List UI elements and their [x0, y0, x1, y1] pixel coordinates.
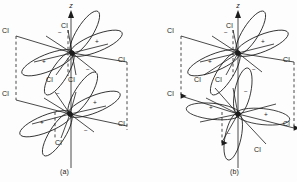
lobe-sign: −: [252, 66, 256, 73]
orbital-figure: + + − − + + − − + + − − + + − − z z Cl C…: [0, 0, 297, 182]
metal-center-a-lower: [67, 111, 72, 116]
z-axis-arrowhead-a: [68, 10, 74, 18]
bond-a-u-1: [16, 36, 72, 53]
lobe-sign: +: [209, 104, 213, 111]
bond-b-l-7: [200, 114, 238, 122]
lobe-sign: +: [95, 38, 99, 45]
lobe-sign: +: [40, 119, 44, 126]
lobe-sign: −: [56, 90, 60, 97]
orbital-diagram-svg: + + − − + + − − + + − − + + − − z z: [0, 0, 297, 182]
bond-b-u-7: [200, 53, 238, 62]
bond-b-u-6: [238, 44, 274, 53]
lobe-sign: −: [224, 29, 228, 36]
z-axis-label-a: z: [68, 2, 73, 9]
lobe-sign: +: [264, 111, 268, 118]
bond-a-l-5: [61, 114, 70, 138]
ligand-label-cl: Cl: [2, 90, 9, 97]
metal-center-a-upper: [69, 50, 74, 55]
ligand-label-cl: Cl: [283, 56, 290, 63]
lobe-sign: −: [84, 127, 88, 134]
ligand-label-cl: Cl: [68, 76, 75, 83]
ligand-label-cl: Cl: [118, 120, 125, 127]
ligand-label-cl: Cl: [194, 76, 201, 83]
z-axis-label-b: z: [235, 2, 240, 9]
ligand-label-cl: Cl: [283, 120, 290, 127]
ligand-label-cl: Cl: [118, 56, 125, 63]
bond-b-u-5: [226, 53, 238, 75]
lobe-sign: −: [86, 66, 90, 73]
ligand-label-cl: Cl: [167, 90, 174, 97]
ligand-label-cl: Cl: [2, 27, 9, 34]
ligand-label-cl: Cl: [61, 22, 68, 29]
metal-center-b-upper: [235, 50, 240, 55]
lobe-sign: −: [227, 130, 231, 137]
z-axis-arrowhead-b: [235, 10, 241, 18]
panel-caption-a: (a): [60, 168, 69, 175]
panel-a: [16, 7, 127, 168]
bond-b-u-1: [181, 36, 238, 53]
panel-b: [181, 7, 294, 168]
lobe-sign: +: [42, 58, 46, 65]
lobe-sign: +: [93, 99, 97, 106]
lobe-sign: −: [244, 88, 248, 95]
bond-b-l-5: [222, 114, 238, 142]
bond-a-u-6: [72, 44, 108, 53]
bond-a-l-7: [32, 114, 70, 124]
ligand-label-cl: Cl: [226, 22, 233, 29]
lobe-sign: −: [58, 29, 62, 36]
panel-caption-b: (b): [230, 168, 239, 175]
metal-center-b-lower: [235, 111, 240, 116]
orbital-upper-b: [181, 7, 294, 99]
bond-a-l-6: [70, 106, 106, 114]
lobe-sign: +: [261, 38, 265, 45]
lobe-sign: +: [208, 58, 212, 65]
ligand-label-cl: Cl: [55, 139, 62, 146]
ligand-label-cl: Cl: [46, 76, 53, 83]
orbital-upper-a: [16, 7, 127, 99]
ligand-label-cl: Cl: [215, 76, 222, 83]
ligand-label-cl: Cl: [167, 27, 174, 34]
ligand-label-cl: Cl: [254, 146, 261, 153]
